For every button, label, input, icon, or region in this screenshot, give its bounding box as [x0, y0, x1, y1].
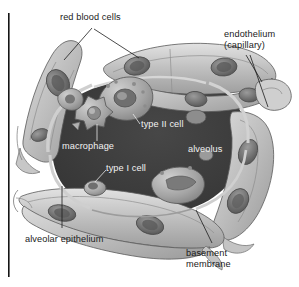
label-basement-membrane: basement membrane: [186, 248, 266, 270]
label-alveolar-epithelium: alveolar epithelium: [25, 234, 104, 245]
label-basement-membrane-line1: basement: [186, 248, 227, 258]
label-alveolus: alveolus: [188, 144, 223, 155]
left-vertical-rule: [8, 13, 10, 277]
figure-canvas: red blood cells endothelium (capillary) …: [0, 0, 299, 287]
label-endothelium-line1: endothelium: [224, 29, 275, 39]
label-type-ii-cell: type II cell: [141, 119, 184, 130]
label-type-i-cell: type I cell: [106, 163, 146, 174]
label-red-blood-cells: red blood cells: [60, 12, 121, 23]
label-endothelium: endothelium (capillary): [224, 29, 298, 51]
leader-red-blood-cells-right: [94, 29, 139, 58]
label-endothelium-line2: (capillary): [224, 40, 265, 50]
label-macrophage: macrophage: [62, 141, 114, 152]
endothelium-right: [255, 79, 291, 110]
type-i-cell: [84, 181, 106, 196]
label-basement-membrane-line2: membrane: [186, 259, 231, 269]
